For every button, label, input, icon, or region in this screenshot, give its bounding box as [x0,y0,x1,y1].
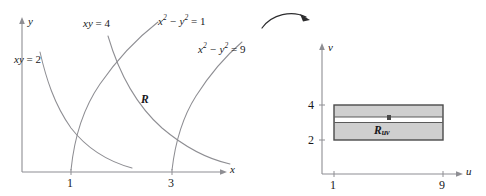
equals-sign: = [228,43,240,55]
curve-label-xy-4: xy = 4 [83,18,110,29]
x-tick-label-1: 1 [67,177,73,189]
arrow-curve [262,14,306,28]
figure-canvas [0,0,486,196]
curve-xy-4 [108,36,230,164]
u-axis-arrowhead [456,171,463,177]
curve-label-hyp-9: x2 − y2 = 9 [198,42,245,55]
u-axis-label: u [466,166,472,177]
region-label-R: R [141,94,149,106]
curve-label-xy-2-text: xy [14,53,24,65]
x-tick-label-3: 3 [168,177,174,189]
region-label-Ruv-sub: uv [382,128,390,137]
curve-value-hyp-9: 9 [240,43,246,55]
region-label-Ruv-main: R [374,124,382,136]
transformation-figure: y x 1 3 xy = 2 xy = 4 x2 − y2 = 1 x2 − y… [0,0,486,196]
hyp-1-expr: x2 − y2 [158,15,188,27]
equals-sign: = [188,15,200,27]
curve-value-hyp-1: 1 [200,15,206,27]
hyp-9-expr: x2 − y2 [198,43,228,55]
x-axis-arrowhead [220,169,227,175]
curve-value-xy-2: 2 [35,53,41,65]
curve-label-hyp-1: x2 − y2 = 1 [158,14,205,27]
v-tick-label-2: 2 [308,134,314,146]
y-axis-label: y [28,16,33,27]
x-axis-label: x [230,164,235,175]
curve-hyp-9 [172,42,242,170]
v-tick-label-4: 4 [308,99,314,111]
v-axis-arrowhead [319,43,325,50]
y-axis-arrowhead [19,17,25,24]
u-tick-label-9: 9 [439,179,445,191]
curve-label-xy-4-text: xy [83,17,93,29]
u-tick-label-1: 1 [330,179,336,191]
curve-value-xy-4: 4 [104,17,110,29]
region-label-Ruv: Ruv [374,125,390,137]
v-axis-label: v [328,42,333,53]
curve-label-xy-2: xy = 2 [14,54,41,65]
arrow-head [300,14,310,22]
uv-strip-marker [387,115,391,120]
transformation-arrow [262,14,310,28]
